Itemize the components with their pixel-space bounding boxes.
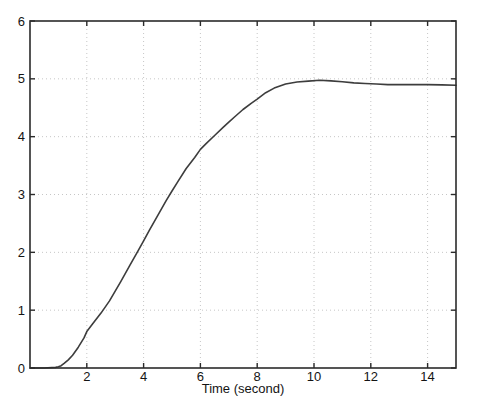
x-axis-label: Time (second) (30, 381, 456, 396)
y-tick-label: 0 (18, 361, 25, 376)
y-tick-label: 1 (18, 303, 25, 318)
response-curve (30, 80, 456, 368)
y-tick-label: 5 (18, 71, 25, 86)
y-tick-label: 6 (18, 14, 25, 29)
plot-canvas: 24681012140123456 (0, 0, 479, 408)
y-tick-label: 4 (18, 129, 25, 144)
y-tick-label: 2 (18, 245, 25, 260)
matlab-figure: 24681012140123456 Time (second) (0, 0, 479, 408)
y-tick-label: 3 (18, 187, 25, 202)
